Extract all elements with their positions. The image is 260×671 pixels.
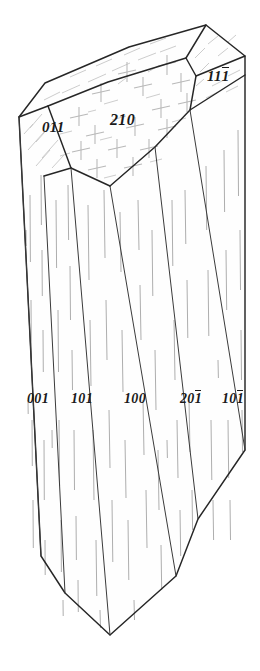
label-digits-100: 100 <box>124 391 146 406</box>
crystal-form-diagram: 011 210 111 001 101 100 201 101 <box>0 0 260 671</box>
face-label-101-right: 101 <box>222 392 244 406</box>
label-digits-001: 001 <box>27 391 49 406</box>
face-label-210: 210 <box>110 112 135 128</box>
face-label-111: 111 <box>207 69 230 84</box>
label-digits-101-right: 101 <box>222 391 244 406</box>
label-digits-210: 210 <box>110 111 135 128</box>
face-label-101-left: 101 <box>71 392 93 406</box>
label-digits-111: 111 <box>207 68 230 84</box>
face-label-201: 201 <box>180 392 202 406</box>
label-digits-201: 201 <box>180 391 202 406</box>
face-label-001: 001 <box>27 392 49 406</box>
face-label-011: 011 <box>42 120 65 135</box>
label-digits-011: 011 <box>42 119 65 135</box>
crystal-drawing <box>0 0 260 671</box>
face-label-100: 100 <box>124 392 146 406</box>
label-digits-101-left: 101 <box>71 391 93 406</box>
